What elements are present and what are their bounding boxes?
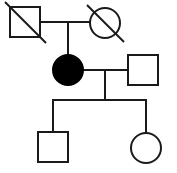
figure-caption bbox=[0, 164, 177, 173]
generation-2-male-unaffected bbox=[128, 55, 158, 85]
sibship-line-generation-3 bbox=[52, 100, 147, 134]
square-symbol-male bbox=[38, 132, 68, 162]
circle-symbol-female-filled bbox=[53, 55, 83, 85]
mating-generation-1 bbox=[40, 22, 90, 56]
generation-1-female-deceased bbox=[87, 5, 124, 42]
pedigree-figure bbox=[0, 0, 177, 173]
generation-2-female-affected bbox=[53, 55, 83, 85]
square-symbol-male bbox=[128, 55, 158, 85]
circle-symbol-female bbox=[131, 133, 161, 163]
generation-3-male-unaffected bbox=[38, 132, 68, 162]
generation-1-male-deceased bbox=[5, 2, 46, 43]
generation-3-female-unaffected bbox=[131, 133, 161, 163]
mating-generation-2 bbox=[82, 70, 129, 101]
pedigree-diagram bbox=[0, 0, 177, 173]
